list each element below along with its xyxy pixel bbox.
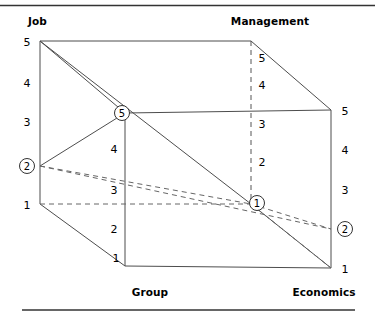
economics-tick-4: 4 [342, 144, 349, 157]
economics-tick-1: 1 [342, 263, 349, 276]
job-tick-3: 3 [24, 116, 31, 129]
cube-edge-main-diagonal [40, 41, 251, 204]
management-tick-5: 5 [259, 52, 266, 65]
economics-tick-2-highlighted: 2 [342, 224, 348, 235]
group-tick-3: 3 [111, 184, 118, 197]
group-tick-5-highlighted: 5 [119, 108, 125, 119]
management-tick-1-highlighted: 1 [254, 198, 260, 209]
management-tick-4: 4 [259, 79, 266, 92]
economics-tick-5: 5 [342, 105, 349, 118]
axis-title-group: Group [132, 286, 169, 298]
job-tick-5: 5 [24, 36, 31, 49]
job-tick-1: 1 [24, 199, 31, 212]
profile-line-job-to-management [40, 166, 251, 204]
group-tick-1: 1 [113, 252, 120, 265]
axis-title-economics: Economics [292, 286, 355, 298]
management-tick-2: 2 [259, 156, 266, 169]
group-tick-4: 4 [111, 143, 118, 156]
cube-edge-lower-right-diagonal [251, 204, 331, 268]
profile-line-job-to-economics [40, 166, 331, 229]
group-tick-2: 2 [111, 223, 118, 236]
axis-title-job: Job [27, 15, 47, 27]
cube-edge-front-top [125, 110, 331, 113]
management-tick-3: 3 [259, 118, 266, 131]
economics-tick-3: 3 [342, 184, 349, 197]
cube-edge-top-left-diagonal [40, 41, 125, 113]
axis-title-management: Management [231, 15, 309, 27]
profile-line-group-to-job [40, 113, 125, 166]
cube-axis-diagram: Job Management Group Economics 5 4 3 2 1… [0, 0, 375, 316]
job-tick-2-highlighted: 2 [24, 161, 30, 172]
cube-edge-front-bottom [125, 266, 331, 268]
job-tick-4: 4 [24, 77, 31, 90]
